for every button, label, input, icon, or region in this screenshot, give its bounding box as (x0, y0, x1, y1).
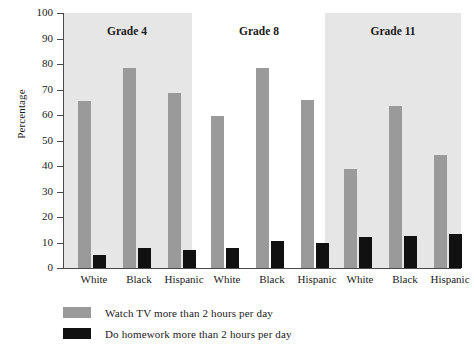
bar-homework (404, 236, 417, 268)
bar-group (117, 13, 161, 268)
bar-homework (183, 250, 196, 268)
bar-group (338, 13, 382, 268)
bar-homework (226, 248, 239, 268)
legend-item: Watch TV more than 2 hours per day (63, 302, 292, 323)
y-tick-20: 20 (0, 217, 63, 218)
y-tick-label: 10 (13, 235, 53, 250)
y-tick-30: 30 (0, 192, 63, 193)
bar-homework (271, 241, 284, 268)
legend-swatch (63, 307, 91, 318)
x-axis-line (63, 268, 461, 269)
bar-watch-tv (123, 68, 136, 268)
bar-homework (138, 248, 151, 268)
y-tick-mark (57, 13, 63, 14)
bar-homework (316, 243, 329, 269)
y-tick-label: 20 (13, 209, 53, 224)
bar-group (162, 13, 206, 268)
bar-group (383, 13, 427, 268)
bar-group (295, 13, 339, 268)
y-tick-mark (57, 90, 63, 91)
y-tick-mark (57, 217, 63, 218)
y-axis-line (63, 13, 64, 269)
y-tick-90: 90 (0, 39, 63, 40)
y-tick-mark (57, 115, 63, 116)
bar-watch-tv (389, 106, 402, 268)
bar-group (250, 13, 294, 268)
chart-legend: Watch TV more than 2 hours per dayDo hom… (63, 302, 292, 344)
y-tick-mark (57, 64, 63, 65)
bar-homework (449, 234, 462, 268)
y-tick-label: 40 (13, 158, 53, 173)
y-tick-40: 40 (0, 166, 63, 167)
y-tick-60: 60 (0, 115, 63, 116)
y-tick-label: 100 (13, 5, 53, 20)
y-tick-mark (57, 243, 63, 244)
y-tick-label: 80 (13, 56, 53, 71)
bar-watch-tv (256, 68, 269, 268)
bar-watch-tv (344, 169, 357, 268)
legend-label: Watch TV more than 2 hours per day (105, 307, 273, 319)
y-tick-100: 100 (0, 13, 63, 14)
legend-swatch (63, 328, 91, 339)
x-label-hispanic: Hispanic (421, 273, 474, 285)
bar-group (72, 13, 116, 268)
y-tick-10: 10 (0, 243, 63, 244)
y-tick-label: 50 (13, 133, 53, 148)
legend-item: Do homework more than 2 hours per day (63, 323, 292, 344)
y-tick-70: 70 (0, 90, 63, 91)
bar-watch-tv (211, 116, 224, 268)
bar-group (205, 13, 249, 268)
y-tick-mark (57, 141, 63, 142)
bar-watch-tv (168, 93, 181, 268)
bar-homework (93, 255, 106, 268)
y-tick-label: 90 (13, 31, 53, 46)
y-tick-50: 50 (0, 141, 63, 142)
y-tick-label: 60 (13, 107, 53, 122)
y-tick-label: 70 (13, 82, 53, 97)
y-tick-mark (57, 166, 63, 167)
y-tick-label: 30 (13, 184, 53, 199)
bar-watch-tv (301, 100, 314, 268)
bar-watch-tv (434, 155, 447, 268)
y-tick-label: 0 (13, 260, 53, 275)
bar-homework (359, 237, 372, 268)
y-tick-0: 0 (0, 268, 63, 269)
y-tick-mark (57, 192, 63, 193)
bar-watch-tv (78, 101, 91, 268)
bar-group (428, 13, 472, 268)
legend-label: Do homework more than 2 hours per day (105, 328, 292, 340)
y-tick-mark (57, 39, 63, 40)
y-tick-mark (57, 268, 63, 269)
y-tick-80: 80 (0, 64, 63, 65)
